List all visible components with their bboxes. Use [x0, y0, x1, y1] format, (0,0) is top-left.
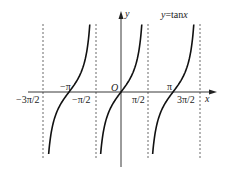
y-axis-label: y — [124, 8, 130, 19]
function-title: y=tanx — [160, 9, 188, 20]
origin-label: O — [111, 82, 118, 93]
tick-label-pi-2: π/2 — [132, 94, 145, 105]
tan-branch-3 — [153, 24, 194, 154]
tan-graph-figure: y y=tanx x O −3π/2 −π −π/2 π/2 π 3π/2 — [0, 0, 228, 174]
x-axis-label: x — [204, 93, 210, 104]
tick-label-neg-3pi-2: −3π/2 — [16, 94, 39, 105]
plot-area: y y=tanx x O −3π/2 −π −π/2 π/2 π 3π/2 — [0, 0, 228, 174]
tick-label-3pi-2: 3π/2 — [177, 94, 195, 105]
tick-label-pi: π — [167, 81, 172, 92]
tick-label-neg-pi: −π — [60, 81, 71, 92]
x-axis-arrow-icon — [209, 90, 217, 95]
y-axis-arrow-icon — [119, 11, 124, 19]
tick-label-neg-pi-2: −π/2 — [72, 94, 90, 105]
